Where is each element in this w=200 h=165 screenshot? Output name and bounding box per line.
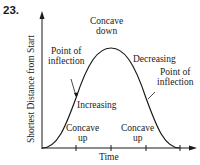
label-point-of-inflection-left: Point of inflection xyxy=(48,46,84,66)
label-line: Concave xyxy=(90,16,123,26)
label-line: down xyxy=(90,26,123,36)
x-axis-arrow-icon xyxy=(189,146,197,151)
label-line: inflection xyxy=(48,56,84,66)
label-line: Point of xyxy=(157,67,193,77)
label-line: up xyxy=(121,133,154,143)
label-decreasing: Decreasing xyxy=(133,54,176,64)
label-concave-down: Concave down xyxy=(90,16,123,36)
label-line: up xyxy=(66,133,99,143)
label-point-of-inflection-right: Point of inflection xyxy=(157,67,193,87)
label-line: Point of xyxy=(48,46,84,56)
y-axis-label: Shortest Distance from Start xyxy=(26,35,36,143)
leader-line-right-inflection xyxy=(148,92,155,99)
x-axis-label: Time xyxy=(99,152,119,162)
label-line: inflection xyxy=(157,77,193,87)
label-concave-up-left: Concave up xyxy=(66,123,99,143)
label-line: Concave xyxy=(66,123,99,133)
label-increasing: Increasing xyxy=(77,100,117,110)
label-line: Concave xyxy=(121,123,154,133)
y-axis-arrow-icon xyxy=(40,11,45,19)
label-concave-up-right: Concave up xyxy=(121,123,154,143)
